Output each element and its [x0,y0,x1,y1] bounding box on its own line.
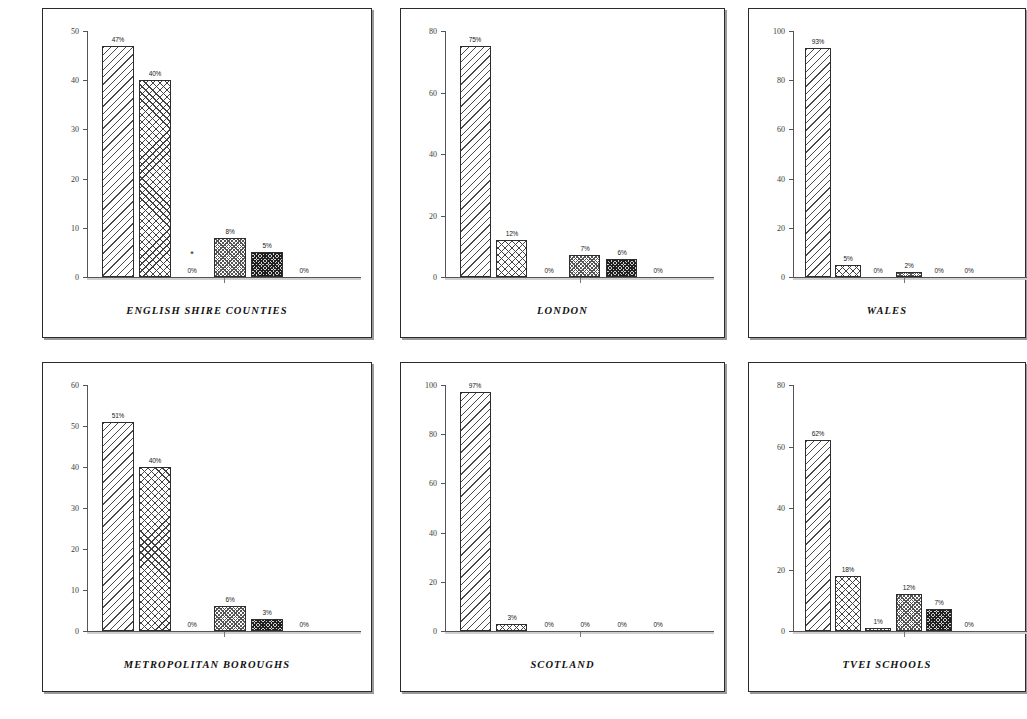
y-axis-tick-label: 30 [53,504,79,513]
bar-value-label: 6% [618,249,627,256]
y-axis-tick-label: 60 [759,125,785,134]
y-axis [793,385,794,631]
x-axis-shadow [793,632,1027,634]
x-axis-tick [904,278,905,283]
y-axis-tick [83,467,87,468]
x-axis-tick [580,632,581,637]
y-axis-tick-label: 40 [411,529,437,538]
y-axis-tick [83,590,87,591]
y-axis [87,385,88,631]
bar-value-label: 5% [844,255,853,262]
bar-value-label: 6% [226,596,235,603]
bar [606,259,637,277]
y-axis-tick [789,228,793,229]
bar-value-label: 1% [874,618,883,625]
y-axis-tick [789,179,793,180]
y-axis-tick-label: 20 [53,545,79,554]
y-axis-tick-label: 80 [411,27,437,36]
y-axis-tick-label: 0 [759,273,785,282]
bar [926,609,952,631]
y-axis-tick-label: 20 [53,175,79,184]
y-axis-tick [441,434,445,435]
bar-value-label: 2% [905,262,914,269]
y-axis-tick [789,31,793,32]
bar [805,48,831,277]
chart-title: LONDON [401,305,724,316]
bar-value-label: 3% [263,609,272,616]
y-axis-tick [441,31,445,32]
plot-area: 02040608062%18%1%12%7%0%TVEI SCHOOLS [749,363,1025,691]
bar [865,628,891,631]
y-axis-tick [441,533,445,534]
y-axis-tick-label: 20 [411,578,437,587]
y-axis-tick-label: 50 [53,422,79,431]
y-axis-tick [441,631,445,632]
bar-value-label: 18% [842,566,854,573]
y-axis-tick-label: 60 [411,89,437,98]
x-axis-tick [224,632,225,637]
y-axis-tick-label: 40 [759,175,785,184]
y-axis-tick [789,508,793,509]
bar-value-label: 3% [508,614,517,621]
chart-panel: 02040608062%18%1%12%7%0%TVEI SCHOOLS [748,362,1026,692]
bar [835,576,861,631]
bar [102,422,134,631]
y-axis-tick [441,93,445,94]
y-axis-tick [83,426,87,427]
bar [835,265,861,277]
footnote-asterisk: * [190,249,194,259]
bar [251,619,283,631]
bar-value-label: 0% [935,267,944,274]
bar-value-label: 40% [149,70,161,77]
y-axis-tick-label: 100 [759,27,785,36]
chart-title: SCOTLAND [401,659,724,670]
y-axis-tick [441,277,445,278]
y-axis-tick-label: 0 [411,273,437,282]
y-axis-tick-label: 10 [53,224,79,233]
y-axis-tick-label: 10 [53,586,79,595]
y-axis-tick [789,447,793,448]
bar-value-label: 0% [581,621,590,628]
bar-value-label: 0% [874,267,883,274]
bar-value-label: 12% [506,230,518,237]
chart-title: METROPOLITAN BOROUGHS [43,659,371,670]
y-axis-tick [789,129,793,130]
y-axis-tick [83,80,87,81]
y-axis-tick [83,228,87,229]
y-axis-tick-label: 40 [53,76,79,85]
y-axis-tick-label: 50 [53,27,79,36]
bar-value-label: 0% [965,267,974,274]
bar [214,238,246,277]
y-axis-tick [441,385,445,386]
bar [896,272,922,277]
bar-value-label: 0% [300,267,309,274]
bar-value-label: 40% [149,457,161,464]
bar [496,240,527,277]
chart-panel: 0102030405047%40%0%*8%5%0%ENGLISH SHIRE … [42,8,372,338]
plot-area: 02040608075%12%0%7%6%0%LONDON [401,9,724,337]
y-axis-tick-label: 60 [759,443,785,452]
y-axis-tick [441,154,445,155]
bar-value-label: 8% [226,228,235,235]
y-axis-tick-label: 20 [759,224,785,233]
bar-value-label: 0% [545,621,554,628]
y-axis [793,31,794,277]
plot-area: 0102030405047%40%0%*8%5%0%ENGLISH SHIRE … [43,9,371,337]
chart-title: WALES [749,305,1025,316]
y-axis [445,385,446,631]
y-axis-tick-label: 0 [759,627,785,636]
y-axis-tick [83,129,87,130]
bar [896,594,922,631]
chart-title: TVEI SCHOOLS [749,659,1025,670]
y-axis-tick [83,277,87,278]
x-axis-tick [904,632,905,637]
bar-value-label: 0% [654,267,663,274]
y-axis-tick-label: 40 [411,150,437,159]
bar-value-label: 7% [935,599,944,606]
bar-value-label: 5% [263,242,272,249]
y-axis-tick-label: 20 [759,566,785,575]
bar-value-label: 0% [188,267,197,274]
y-axis [87,31,88,277]
y-axis-tick [789,570,793,571]
